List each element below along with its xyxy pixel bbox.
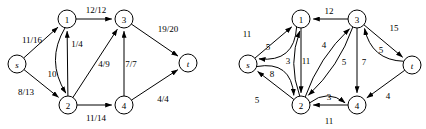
edge-label-1-2: 11 bbox=[302, 56, 311, 66]
node-t[interactable]: t bbox=[179, 54, 197, 72]
edge-label-4-t: 4/4 bbox=[157, 94, 169, 104]
edge-label-2-1: 1/4 bbox=[71, 39, 83, 49]
edge-label-1-s: 11 bbox=[243, 29, 252, 39]
edge-2-to-1 bbox=[294, 31, 300, 96]
node-label-s: s bbox=[15, 60, 19, 70]
node-t[interactable]: t bbox=[403, 56, 421, 74]
node-s[interactable]: s bbox=[8, 55, 26, 73]
edge-label-2-1: 3 bbox=[286, 56, 291, 66]
node-2[interactable]: 2 bbox=[59, 96, 77, 114]
node-label-s: s bbox=[246, 60, 250, 70]
edge-label-s-1: 11/16 bbox=[22, 35, 43, 45]
edge-label-2-3: 4 bbox=[322, 40, 327, 50]
nodes-layer: s13t24s13t24 bbox=[8, 10, 421, 114]
node-label-2: 2 bbox=[299, 101, 304, 111]
edge-s-to-1 bbox=[255, 27, 292, 58]
edge-label-2-s: 8 bbox=[270, 69, 275, 79]
edge-1-to-s bbox=[259, 27, 297, 59]
edge-1-to-2 bbox=[55, 28, 65, 93]
node-label-1: 1 bbox=[65, 15, 70, 25]
edge-label-3-2: 5 bbox=[342, 57, 347, 67]
edge-label-2-4: 11 bbox=[325, 116, 334, 126]
edges-layer bbox=[24, 19, 405, 105]
figure-canvas: s13t24s13t24 11/168/1312/12101/44/911/14… bbox=[0, 0, 426, 129]
edge-t-to-3 bbox=[365, 28, 404, 61]
node-label-3: 3 bbox=[355, 15, 360, 25]
node-1[interactable]: 1 bbox=[58, 10, 76, 28]
node-label-2: 2 bbox=[66, 101, 71, 111]
node-label-4: 4 bbox=[122, 101, 127, 111]
node-label-1: 1 bbox=[299, 15, 304, 25]
edge-label-2-3: 4/9 bbox=[98, 59, 110, 69]
edge-label-t-3: 15 bbox=[390, 23, 400, 33]
edge-label-1-3: 12/12 bbox=[86, 5, 107, 15]
node-label-3: 3 bbox=[122, 15, 127, 25]
edge-label-4-2: 3 bbox=[327, 92, 332, 102]
edge-2-to-1 bbox=[67, 31, 68, 96]
node-label-4: 4 bbox=[355, 101, 360, 111]
edge-label-3-4: 7 bbox=[362, 57, 367, 67]
edge-label-s-1: 5 bbox=[266, 42, 271, 52]
edge-label-3-1: 12 bbox=[325, 6, 334, 16]
edge-label-3-t: 5 bbox=[379, 45, 384, 55]
edge-label-s-2: 8/13 bbox=[18, 87, 35, 97]
node-s[interactable]: s bbox=[239, 55, 257, 73]
edge-label-t-4: 4 bbox=[386, 91, 391, 101]
node-3[interactable]: 3 bbox=[115, 10, 133, 28]
node-4[interactable]: 4 bbox=[115, 96, 133, 114]
edge-label-3-t: 19/20 bbox=[158, 24, 179, 34]
flow-network-figure: s13t24s13t24 11/168/1312/12101/44/911/14… bbox=[0, 0, 426, 129]
edge-label-1-2: 10 bbox=[48, 69, 58, 79]
edge-label-s-2: 5 bbox=[255, 95, 260, 105]
node-4[interactable]: 4 bbox=[348, 96, 366, 114]
edge-4-to-t bbox=[132, 70, 178, 100]
edge-label-2-4: 11/14 bbox=[86, 113, 107, 123]
node-1[interactable]: 1 bbox=[292, 10, 310, 28]
edge-s-to-2 bbox=[257, 66, 294, 96]
node-2[interactable]: 2 bbox=[292, 96, 310, 114]
node-3[interactable]: 3 bbox=[348, 10, 366, 28]
edge-label-4-3: 7/7 bbox=[125, 59, 137, 69]
